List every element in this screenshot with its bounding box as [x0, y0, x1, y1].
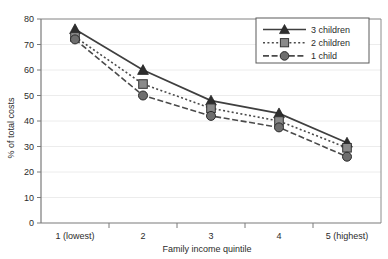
y-axis-tick-label: 60: [24, 65, 34, 75]
y-axis-tick-label: 40: [24, 116, 34, 126]
x-axis-title: Family income quintile: [162, 244, 251, 254]
legend-marker-2: [280, 52, 289, 61]
chart-container: 01020304050607080 1 (lowest)2345 (highes…: [0, 0, 388, 259]
marker-2-children-1: [139, 80, 148, 89]
x-axis-tick-label: 4: [276, 231, 281, 241]
marker-1-child-3: [275, 123, 284, 132]
chart-legend: 3 children2 children1 child: [256, 18, 369, 63]
y-axis-tick-label: 50: [24, 91, 34, 101]
marker-1-child-1: [139, 91, 148, 100]
legend-label-2: 1 child: [311, 51, 337, 61]
x-axis-tick-label: 5 (highest): [326, 231, 369, 241]
line-chart: 01020304050607080 1 (lowest)2345 (highes…: [0, 0, 388, 259]
legend-marker-1: [280, 39, 288, 47]
x-axis-tick-label: 3: [208, 231, 213, 241]
y-axis-title: % of total costs: [6, 97, 16, 159]
x-axis-tick-label: 1 (lowest): [55, 231, 94, 241]
y-axis-tick-label: 20: [24, 167, 34, 177]
x-axis-tick-label: 2: [140, 231, 145, 241]
marker-1-child-2: [207, 111, 216, 120]
y-axis-tick-labels: 01020304050607080: [24, 14, 34, 228]
legend-label-1: 2 children: [311, 38, 350, 48]
marker-1-child-4: [343, 152, 352, 161]
y-axis-tick-label: 10: [24, 193, 34, 203]
y-axis-tick-label: 80: [24, 14, 34, 24]
legend-label-0: 3 children: [311, 25, 350, 35]
marker-2-children-4: [343, 143, 352, 152]
marker-1-child-0: [71, 35, 80, 44]
y-axis-tick-label: 30: [24, 142, 34, 152]
y-axis-tick-label: 70: [24, 40, 34, 50]
y-axis-tick-label: 0: [29, 218, 34, 228]
